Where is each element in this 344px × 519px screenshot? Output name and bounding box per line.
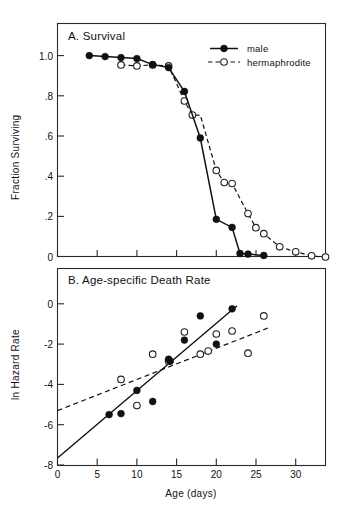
y-tick-06: .6 (45, 131, 64, 142)
panel-b: B. Age-specific Death Rate ln Hazard Rat… (10, 269, 326, 500)
panel-a-title: A. Survival (68, 30, 125, 42)
y-tick-0: 0 (47, 252, 64, 263)
y-tick-0: 0 (47, 299, 64, 310)
x-tick-5: 5 (94, 459, 100, 481)
panel-a-y-ticks: 1.0 .8 .6 .4 .2 (39, 51, 64, 263)
survival-and-hazard-figure: A. Survival Fraction Surviving 1.0 .8 .6 (0, 0, 344, 519)
x-tick-label: 30 (290, 469, 302, 480)
y-tick-label: 1.0 (39, 51, 53, 62)
y-tick-label: .4 (45, 171, 54, 182)
x-tick-label: 25 (250, 469, 262, 480)
panel-a-legend: male hermaphrodite (208, 43, 311, 68)
y-tick-label: 0 (47, 252, 53, 263)
x-tick-label: 15 (171, 469, 183, 480)
panel-a-y-axis-label: Fraction Surviving (10, 115, 21, 200)
x-axis-label: Age (days) (165, 488, 216, 499)
male-regression-line (58, 306, 238, 458)
series-hermaphrodite-hazard-points (118, 313, 267, 409)
y-tick-label: -2 (44, 339, 53, 350)
legend-marker-filled-circle (221, 45, 228, 52)
y-tick-1: 1.0 (39, 51, 64, 62)
y-tick-label: -6 (44, 420, 53, 431)
legend-label-male: male (247, 43, 268, 54)
y-tick-label: .2 (45, 211, 54, 222)
y-tick-04: .4 (45, 171, 64, 182)
x-tick-label: 5 (94, 469, 100, 480)
legend-marker-open-circle (221, 59, 228, 66)
y-tick-minus6: -6 (44, 420, 64, 431)
y-tick-label: 0 (47, 299, 53, 310)
panel-b-x-ticks: 0 5 10 15 20 (55, 459, 302, 481)
legend-label-hermaphrodite: hermaphrodite (247, 57, 311, 68)
hermaphrodite-survival-points (118, 62, 329, 261)
hermaphrodite-survival-line (121, 65, 328, 258)
panel-b-y-axis-label: ln Hazard Rate (10, 329, 21, 400)
x-tick-label: 10 (131, 469, 143, 480)
y-tick-label: .6 (45, 131, 54, 142)
series-male-survival (86, 52, 267, 259)
series-hermaphrodite-survival (118, 62, 329, 261)
x-tick-30: 30 (290, 459, 302, 481)
x-tick-20: 20 (211, 459, 223, 481)
y-tick-label: .8 (45, 91, 54, 102)
x-tick-15: 15 (171, 459, 183, 481)
y-tick-minus2: -2 (44, 339, 64, 350)
panel-b-title: B. Age-specific Death Rate (68, 274, 211, 286)
x-tick-0: 0 (55, 459, 61, 481)
y-tick-minus4: -4 (44, 379, 64, 390)
x-tick-label: 0 (55, 469, 61, 480)
y-tick-02: .2 (45, 211, 64, 222)
male-survival-points (86, 52, 267, 259)
x-tick-25: 25 (250, 459, 262, 481)
x-tick-label: 20 (211, 469, 223, 480)
y-tick-08: .8 (45, 91, 64, 102)
panel-b-y-ticks: 0 -2 -4 -6 -8 (44, 299, 64, 471)
legend-item-male: male (210, 43, 268, 54)
panel-b-frame (58, 269, 326, 466)
legend-item-hermaphrodite: hermaphrodite (208, 57, 311, 68)
y-tick-label: -4 (44, 379, 53, 390)
figure-container: A. Survival Fraction Surviving 1.0 .8 .6 (0, 0, 344, 519)
x-tick-10: 10 (131, 459, 143, 481)
panel-a: A. Survival Fraction Surviving 1.0 .8 .6 (10, 24, 329, 263)
male-survival-line (89, 56, 263, 256)
y-tick-label: -8 (44, 460, 53, 471)
